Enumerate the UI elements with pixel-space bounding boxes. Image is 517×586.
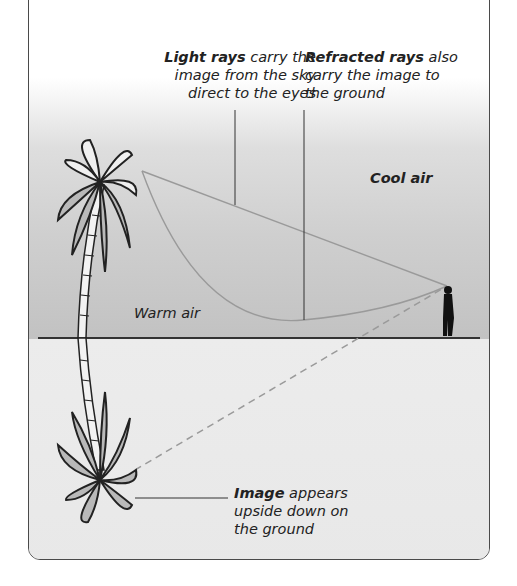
refracted-rays-line1: also	[424, 49, 458, 65]
light-rays-line3: direct to the eyes	[148, 84, 316, 102]
light-rays-bold: Light rays	[164, 49, 245, 65]
image-line3: the ground	[234, 520, 414, 538]
refracted-rays-line3: the ground	[305, 84, 485, 102]
warm-air-text: Warm air	[134, 305, 200, 321]
cool-air-label: Cool air	[370, 169, 433, 187]
refracted-ray	[142, 171, 447, 321]
light-rays-line2: image from the sky	[148, 66, 316, 84]
image-bold: Image	[234, 485, 285, 501]
palm-tree	[58, 140, 136, 338]
refracted-rays-label: Refracted rays also carry the image to t…	[305, 48, 485, 102]
image-line2: upside down on	[234, 502, 414, 520]
refracted-rays-bold: Refracted rays	[305, 49, 424, 65]
refracted-rays-line2: carry the image to	[305, 66, 485, 84]
warm-air-label: Warm air	[134, 304, 200, 322]
light-rays-label: Light rays carry the image from the sky …	[148, 48, 316, 102]
direct-ray	[142, 171, 447, 286]
image-label: Image appears upside down on the ground	[234, 484, 414, 538]
cool-air-text: Cool air	[370, 170, 433, 186]
observer-person	[443, 286, 454, 336]
reflected-palm-tree	[58, 338, 136, 522]
image-line1: appears	[285, 485, 348, 501]
